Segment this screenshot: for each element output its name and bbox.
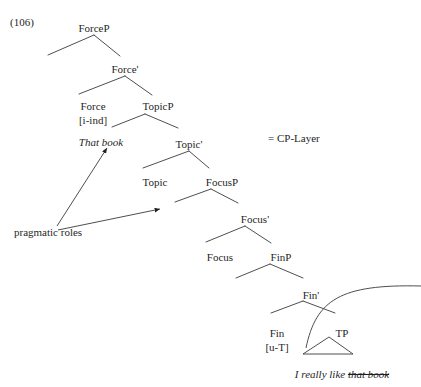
tree-node-thatBook: That book [79,136,123,149]
tree-node-finP: FinP [271,251,292,264]
tree-node-tp: TP [336,327,349,340]
branch-focusP-left [175,189,211,202]
branch-finP-right [270,264,303,278]
tree-node-finBar: Fin' [303,289,320,302]
tree-node-forceBar: Force' [111,63,138,76]
branch-topicP-right [145,114,178,128]
terminal-string: I really like that book [295,368,389,381]
syntax-tree-figure: (106) = CP-Layer pragmatic roles ForcePF… [0,0,421,387]
pragmatic-arrow-1 [57,148,107,226]
branch-focusBar-right [245,226,271,243]
branch-finP-left [236,264,270,278]
cp-layer-annotation: = CP-Layer [268,132,320,144]
terminal-string-prefix: I really like [295,368,348,380]
tree-node-topic: Topic [143,176,168,189]
branch-topicBar-right [189,151,209,168]
branch-forceBar-left [79,76,125,94]
tree-node-forceFeat: [i-ind] [79,114,107,127]
tree-node-force: Force [80,100,105,113]
tree-node-forceP: ForceP [78,22,109,35]
tree-lines-svg [0,0,421,387]
branch-topicP-left [112,114,145,127]
branch-forceP-right [94,35,120,56]
movement-arc-path [306,286,421,348]
pragmatic-roles-annotation: pragmatic roles [14,226,82,238]
terminal-string-trace: that book [348,368,389,380]
tree-node-fin: Fin [270,327,285,340]
branch-forceBar-right [125,76,152,95]
pragmatic-role-arrows [57,148,160,230]
tree-node-topicBar: Topic' [176,138,203,151]
example-number: (106) [10,16,34,28]
branch-focusP-right [211,189,238,203]
tree-node-focusP: FocusP [206,176,238,189]
branch-focusBar-left [206,226,245,242]
tree-node-finFeat: [u-T] [265,341,288,354]
branch-forceP-left [48,35,94,55]
branch-lines [48,35,335,313]
tree-node-topicP: TopicP [142,100,173,113]
tree-node-focus: Focus [207,251,233,264]
tree-node-focusBar: Focus' [241,213,269,226]
branch-topicBar-left [143,151,189,168]
movement-arc [306,286,421,348]
branch-finBar-left [271,301,303,313]
